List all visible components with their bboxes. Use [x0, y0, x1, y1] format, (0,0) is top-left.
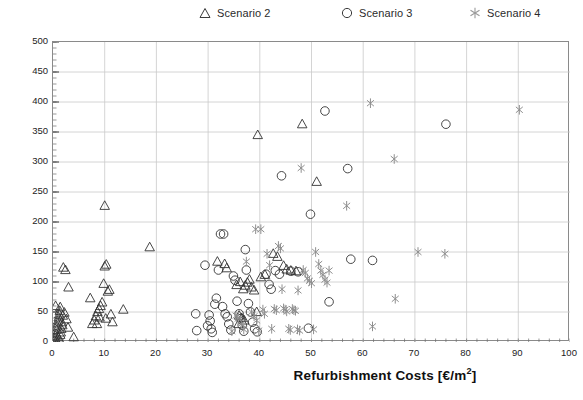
y-tick-label: 350 — [14, 126, 48, 135]
y-tick-label: 150 — [14, 246, 48, 255]
plot-area — [52, 41, 569, 341]
legend-label-scenario-4: Scenario 4 — [487, 7, 541, 19]
y-tick-label: 0 — [14, 336, 48, 345]
legend-item-scenario-4[interactable]: Scenario 4 — [468, 2, 541, 24]
x-tick-label: 60 — [342, 347, 382, 358]
y-tick-label: 100 — [14, 276, 48, 285]
asterisk-icon — [468, 6, 482, 20]
x-tick-label: 30 — [187, 347, 227, 358]
circle-icon — [340, 6, 354, 20]
x-tick-label: 10 — [84, 347, 124, 358]
x-tick-label: 20 — [135, 347, 175, 358]
series-scenario-3 — [191, 107, 450, 337]
y-tick-label: 200 — [14, 216, 48, 225]
legend-item-scenario-2[interactable]: Scenario 2 — [198, 2, 271, 24]
legend-item-scenario-3[interactable]: Scenario 3 — [340, 2, 413, 24]
y-tick-label: 50 — [14, 306, 48, 315]
scatter-chart-figure: Scenario 2 Scenario 3 Scenario 4 0501001… — [0, 0, 583, 400]
y-tick-label: 500 — [14, 36, 48, 45]
x-tick-label: 90 — [497, 347, 537, 358]
y-axis-title-wrapper: Intensity Reduction (kWh/m²/yr) — [22, 41, 23, 341]
x-axis-title-suffix: ] — [472, 368, 477, 383]
x-tick-label: 80 — [446, 347, 486, 358]
data-points-layer — [53, 42, 570, 342]
y-tick-label: 250 — [14, 186, 48, 195]
x-axis-tick-labels: 0102030405060708090100 — [52, 347, 569, 361]
y-tick-label: 450 — [14, 66, 48, 75]
y-axis-tick-labels: 050100150200250300350400450500 — [8, 41, 48, 341]
y-tick-label: 300 — [14, 156, 48, 165]
x-tick-label: 50 — [291, 347, 331, 358]
legend-label-scenario-3: Scenario 3 — [359, 7, 413, 19]
x-axis-title-prefix: Refurbishment Costs [€/m — [294, 368, 467, 383]
x-tick-label: 70 — [394, 347, 434, 358]
legend-label-scenario-2: Scenario 2 — [217, 7, 271, 19]
series-scenario-4 — [228, 98, 522, 336]
x-tick-label: 0 — [32, 347, 72, 358]
chart-legend: Scenario 2 Scenario 3 Scenario 4 — [0, 2, 583, 28]
series-scenario-2 — [53, 119, 321, 342]
y-tick-label: 400 — [14, 96, 48, 105]
x-tick-label: 100 — [549, 347, 583, 358]
x-axis-title: Refurbishment Costs [€/m2] — [200, 366, 570, 383]
x-tick-label: 40 — [239, 347, 279, 358]
triangle-icon — [198, 6, 212, 20]
